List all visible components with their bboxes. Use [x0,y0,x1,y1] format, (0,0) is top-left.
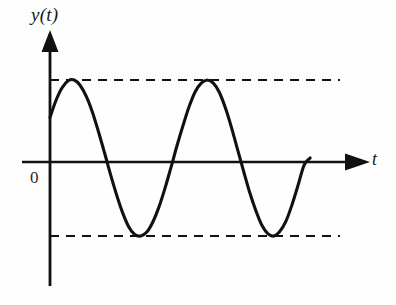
t-axis [22,154,370,171]
waveform-figure: y(t) t 0 [0,0,396,305]
plot-canvas [0,0,396,305]
t-axis-arrowhead-icon [345,154,370,171]
t-axis-label: t [372,149,377,170]
y-axis-arrowhead-icon [42,30,59,52]
waveform-curve [50,80,310,237]
y-axis-label: y(t) [31,4,58,26]
y-axis [42,30,59,286]
origin-label: 0 [30,168,39,188]
